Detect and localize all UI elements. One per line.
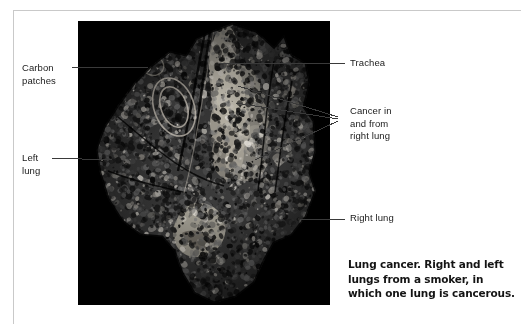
label-cancer-in-and-from-right-lung: Cancer in and from right lung (350, 105, 428, 143)
label-left-lung: Left lung (22, 152, 80, 177)
label-carbon-patches: Carbon patches (22, 62, 84, 87)
label-right-lung: Right lung (350, 212, 440, 225)
label-trachea: Trachea (350, 57, 440, 70)
lung-specimen-photograph (78, 21, 330, 305)
specimen-image (78, 21, 330, 305)
figure-caption: Lung cancer. Right and left lungs from a… (348, 257, 520, 301)
